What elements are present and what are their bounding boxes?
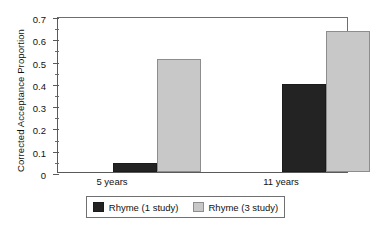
y-axis-tick-major: 0.4 <box>53 85 59 86</box>
y-axis-tick-label: 0.3 <box>33 103 46 114</box>
y-axis-tick-label: 0.6 <box>33 36 46 47</box>
bar-11-years-rhyme-1-study- <box>282 84 326 172</box>
y-axis-tick-minor <box>55 29 59 30</box>
legend-label-rhyme-1-study: Rhyme (1 study) <box>109 202 179 213</box>
y-axis-tick-label: 0.7 <box>33 14 46 25</box>
legend-entry-rhyme-1-study: Rhyme (1 study) <box>93 202 179 213</box>
y-axis-tick-label: 0.4 <box>33 80 46 91</box>
y-axis-tick-label: 0.2 <box>33 125 46 136</box>
x-axis-label-5-years: 5 years <box>96 176 127 187</box>
legend-swatch-icon-dark <box>93 202 104 212</box>
y-axis-tick-label: 0.1 <box>33 147 46 158</box>
y-axis-tick-minor <box>55 74 59 75</box>
y-axis-tick-major: 0.3 <box>53 107 59 108</box>
y-axis-tick-major: 0.1 <box>53 152 59 153</box>
y-axis-tick-label: 0 <box>41 170 46 181</box>
bar-5-years-rhyme-1-study- <box>113 163 157 172</box>
plot-area: 0.70.60.50.40.30.20.10 <box>57 17 348 173</box>
y-axis-tick-major: 0.6 <box>53 40 59 41</box>
legend-entry-rhyme-3-study: Rhyme (3 study) <box>193 202 279 213</box>
legend-swatch-icon-light <box>193 202 204 212</box>
bar-5-years-rhyme-3-study- <box>157 59 201 172</box>
bar-11-years-rhyme-3-study- <box>326 31 370 173</box>
y-axis-tick-minor <box>55 96 59 97</box>
chart-legend: Rhyme (1 study) Rhyme (3 study) <box>86 196 285 218</box>
y-axis-tick-minor <box>55 118 59 119</box>
y-axis-title: Corrected Acceptance Proportion <box>15 11 26 191</box>
y-axis-tick-minor <box>55 141 59 142</box>
y-axis-tick-minor <box>55 51 59 52</box>
legend-label-rhyme-3-study: Rhyme (3 study) <box>209 202 279 213</box>
y-axis-tick-minor <box>55 163 59 164</box>
y-axis-tick-major: 0.2 <box>53 129 59 130</box>
y-axis-tick-major: 0 <box>53 174 59 175</box>
x-axis-label-11-years: 11 years <box>263 176 299 187</box>
y-axis-tick-major: 0.7 <box>53 18 59 19</box>
y-axis-tick-major: 0.5 <box>53 63 59 64</box>
y-axis-tick-label: 0.5 <box>33 58 46 69</box>
